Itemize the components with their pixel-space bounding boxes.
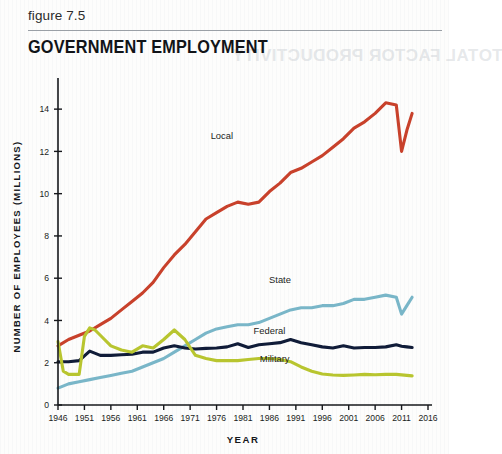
x-tick-label: 1946	[48, 413, 67, 423]
x-tick-label: 2016	[418, 413, 437, 423]
x-tick-label: 1966	[154, 413, 173, 423]
header-divider	[28, 30, 442, 31]
x-tick-label: 2011	[392, 413, 411, 423]
x-tick-label: 1981	[233, 413, 252, 423]
x-axis-title: YEAR	[227, 434, 260, 445]
y-tick-label: 12	[39, 147, 49, 157]
y-tick-label: 2	[44, 358, 49, 368]
y-axis-title: NUMBER OF EMPLOYEES (MILLIONS)	[11, 141, 22, 353]
x-tick-label: 1951	[75, 413, 94, 423]
series-group	[58, 103, 412, 388]
x-tick-label: 2006	[366, 413, 385, 423]
series-label-local: Local	[211, 130, 233, 141]
x-tick-label: 1986	[260, 413, 279, 423]
figure-label: figure 7.5	[28, 8, 85, 23]
y-tick-label: 10	[39, 189, 49, 199]
y-tick-label: 14	[39, 104, 49, 114]
x-tick-label: 1956	[101, 413, 120, 423]
x-tick-label: 2001	[339, 413, 358, 423]
chart-title: GOVERNMENT EMPLOYMENT	[28, 37, 268, 58]
x-tick-label: 1961	[128, 413, 147, 423]
series-label-military: Military	[260, 353, 290, 364]
x-tick-label: 1976	[207, 413, 226, 423]
y-tick-label: 4	[44, 316, 49, 326]
series-line-military	[58, 328, 412, 376]
series-line-local	[58, 103, 412, 346]
y-tick-label: 0	[44, 400, 49, 410]
x-tick-label: 1991	[286, 413, 305, 423]
x-axis-ticks: 1946195119561961196619711976198119861991…	[48, 405, 437, 423]
series-label-state: State	[269, 274, 291, 285]
series-label-federal: Federal	[254, 325, 286, 336]
y-tick-label: 6	[44, 273, 49, 283]
x-tick-label: 1971	[181, 413, 200, 423]
x-tick-label: 1996	[313, 413, 332, 423]
series-line-federal	[58, 339, 412, 361]
y-tick-label: 8	[44, 231, 49, 241]
